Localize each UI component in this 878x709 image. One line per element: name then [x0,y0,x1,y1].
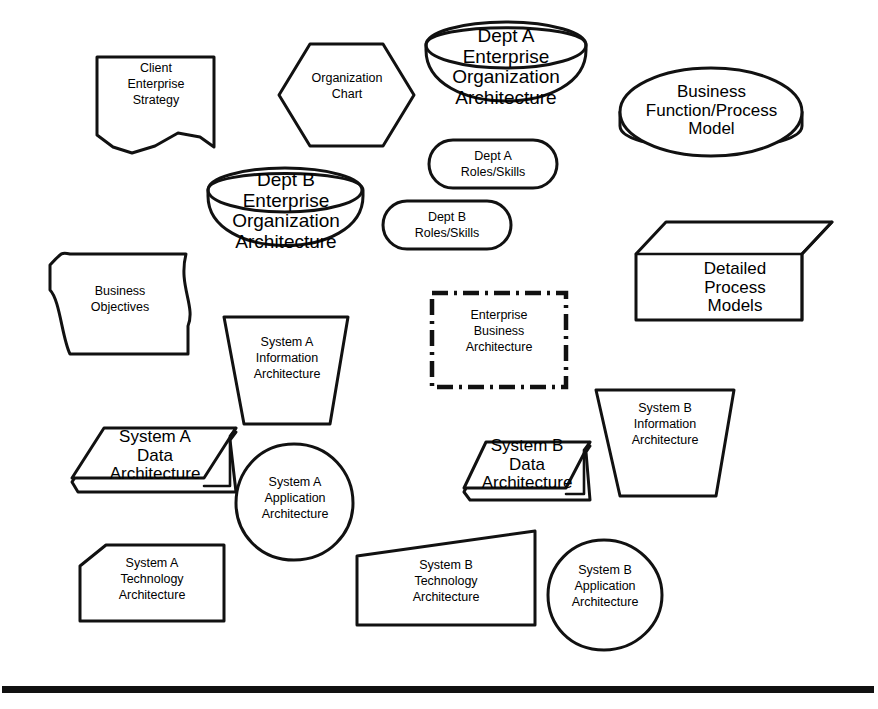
dept-b-enterprise-organization-architecture-shape[interactable] [208,168,363,246]
system-a-information-architecture-shape[interactable] [224,317,348,424]
business-objectives-shape[interactable] [50,253,190,354]
dept-a-roles-skills-shape[interactable] [429,140,557,188]
system-b-application-architecture-shape[interactable] [548,540,662,650]
client-enterprise-strategy-shape[interactable] [97,57,214,153]
system-a-data-architecture-shape[interactable] [72,428,236,492]
dept-b-roles-skills-shape[interactable] [383,201,511,249]
diagram-vector-layer [0,0,878,709]
dept-a-enterprise-organization-architecture-shape[interactable] [426,22,586,101]
business-function-process-model-shape[interactable] [620,68,802,156]
system-b-technology-architecture-shape[interactable] [357,531,535,625]
enterprise-business-architecture-shape[interactable] [432,293,566,387]
organization-chart-shape[interactable] [279,44,414,146]
system-b-information-architecture-shape[interactable] [596,390,734,496]
diagram-canvas: Client Enterprise Strategy Organization … [0,0,878,709]
system-a-technology-architecture-shape[interactable] [80,545,224,621]
system-b-data-architecture-shape[interactable] [464,442,590,500]
detailed-process-models-shape[interactable] [636,222,832,320]
system-a-application-architecture-shape[interactable] [236,444,353,560]
horizontal-rule [2,686,874,693]
